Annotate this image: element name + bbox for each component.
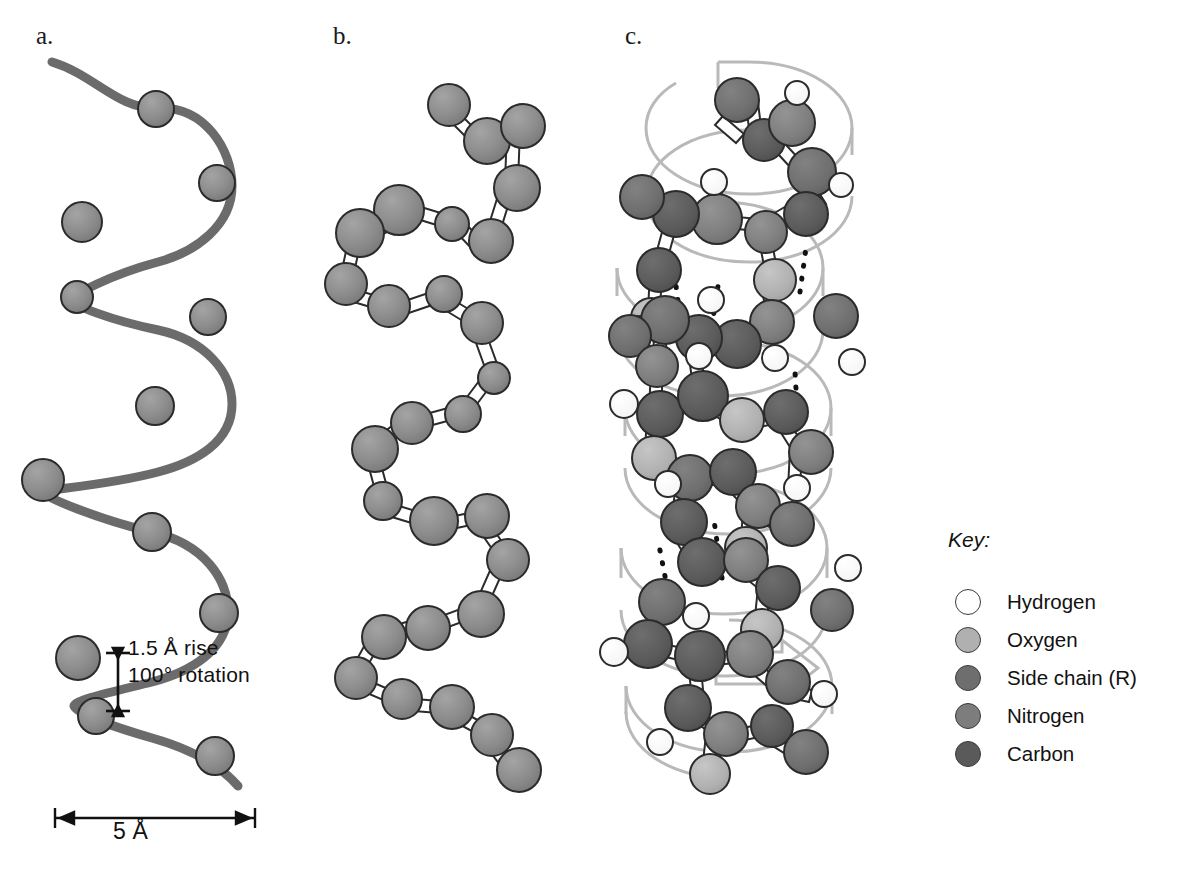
atom-hydrogen [701,169,727,195]
atom-carbon [637,391,683,437]
atom-hydrogen [655,471,681,497]
carbon-swatch-icon [955,741,981,767]
atom-hydrogen [698,287,724,313]
atom-side-chain [766,660,810,704]
atom-hydrogen [785,81,809,105]
diameter-annotation: 5 Å [113,818,148,845]
key-item-side-chain: Side chain (R) [955,659,1185,697]
atom-hydrogen [686,343,712,369]
atom-side-chain [814,294,858,338]
key-item-nitrogen: Nitrogen [955,697,1185,735]
atom-carbon [678,538,726,586]
rise-line-1: 1.5 Å rise [128,634,250,661]
side-chain-swatch-icon [955,665,981,691]
atom-nitrogen [636,345,678,387]
key-title: Key: [948,528,990,552]
atom-hydrogen [600,638,628,666]
atom-side-chain [784,730,828,774]
atom-side-chain [639,579,685,625]
key-label-carbon: Carbon [1007,742,1074,766]
atom-nitrogen [704,712,748,756]
nitrogen-swatch-icon [955,703,981,729]
atom-side-chain [770,502,814,546]
rise-line-2: 100° rotation [128,661,250,688]
panel-a-helix-trace [22,62,255,828]
backbone-atom-spheres [325,84,545,792]
key-legend: Hydrogen Oxygen Side chain (R) Nitrogen … [955,583,1185,773]
atom-carbon [784,192,828,236]
atom-hydrogen [835,555,861,581]
atom-hydrogen [647,729,673,755]
atom-nitrogen [745,211,787,253]
atom-carbon [675,631,725,681]
panel-c-atomic-model [600,62,865,794]
key-item-oxygen: Oxygen [955,621,1185,659]
atom-hydrogen [829,173,853,197]
atom-hydrogen [784,475,810,501]
atom-hydrogen [839,349,865,375]
atom-oxygen [690,754,730,794]
atom-oxygen [720,398,764,442]
rise-rotation-annotation: 1.5 Å rise 100° rotation [128,634,250,688]
key-label-oxygen: Oxygen [1007,628,1078,652]
atom-oxygen [754,259,796,301]
atom-nitrogen [692,194,742,244]
atom-hydrogen [683,603,709,629]
atom-side-chain [620,175,664,219]
atom-carbon [624,620,672,668]
atom-carbon [764,390,808,434]
key-item-carbon: Carbon [955,735,1185,773]
atom-nitrogen [789,430,833,474]
atom-carbon [637,248,681,292]
atom-side-chain [715,78,759,122]
atom-carbon [756,566,800,610]
panel-b-backbone-model [325,84,545,792]
diameter-measure-arrow [55,808,255,828]
atom-hydrogen [811,681,837,707]
atoms [600,78,865,794]
atom-carbon [665,685,711,731]
hydrogen-swatch-icon [955,589,981,615]
atom-nitrogen [769,100,815,146]
atom-nitrogen [727,631,773,677]
key-label-side-chain: Side chain (R) [1007,666,1137,690]
atom-hydrogen [762,345,788,371]
key-label-nitrogen: Nitrogen [1007,704,1085,728]
atom-hydrogen [610,390,638,418]
key-label-hydrogen: Hydrogen [1007,590,1096,614]
atom-side-chain [811,589,853,631]
oxygen-swatch-icon [955,627,981,653]
key-item-hydrogen: Hydrogen [955,583,1185,621]
